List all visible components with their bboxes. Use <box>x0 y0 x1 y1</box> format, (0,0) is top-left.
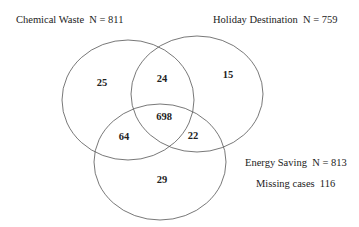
count-chemical-holiday: 24 <box>157 73 168 85</box>
count-energy-only: 29 <box>157 174 168 186</box>
count-chemical-energy: 64 <box>119 131 130 143</box>
count-holiday-only: 15 <box>223 69 234 81</box>
chemical-waste-title: Chemical Waste N = 811 <box>16 14 123 26</box>
energy-saving-title: Energy Saving N = 813 <box>245 157 347 169</box>
missing-cases-label: Missing cases 116 <box>256 178 335 190</box>
holiday-destination-title: Holiday Destination N = 759 <box>213 14 338 26</box>
count-all-three: 698 <box>156 111 172 123</box>
venn-diagram <box>0 0 359 227</box>
count-holiday-energy: 22 <box>188 130 199 142</box>
count-chemical-only: 25 <box>97 77 108 89</box>
